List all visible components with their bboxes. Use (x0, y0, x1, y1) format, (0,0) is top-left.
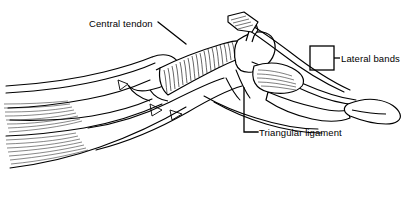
figure-background (0, 0, 412, 202)
label-triangular-ligament: Triangular ligament (259, 128, 342, 138)
label-central-tendon: Central tendon (89, 19, 153, 29)
anatomy-illustration (0, 0, 412, 202)
anatomy-figure: Central tendon Lateral bands Triangular … (0, 0, 412, 202)
label-lateral-bands: Lateral bands (341, 54, 400, 64)
